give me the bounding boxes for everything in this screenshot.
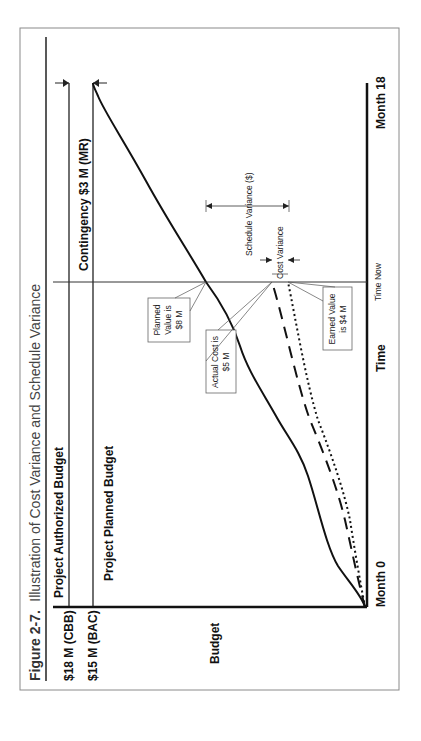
figure-number: Figure 2-7. <box>27 610 43 681</box>
ac-callout-line2: $5 M <box>221 353 231 372</box>
schedule-variance-label: Schedule Variance ($) <box>244 172 254 256</box>
ev-callout-line1: Earned Value <box>327 293 337 344</box>
ac-callout-line1: Actual Cost is <box>210 336 220 388</box>
cbb-value-label: $18 M (CBB) <box>62 610 76 681</box>
planned-budget-label: Project Planned Budget <box>102 446 116 581</box>
chart-svg: Figure 2-7. Illustration of Cost Varianc… <box>0 0 421 741</box>
bac-value-label: $15 M (BAC) <box>86 610 100 681</box>
ev-callout-line2: is $4 M <box>338 305 348 332</box>
y-axis-label: Budget <box>208 623 222 664</box>
x-axis-label: Time <box>374 344 388 372</box>
x-tick-month-18: Month 18 <box>374 76 388 129</box>
sv-arrowhead-top <box>206 203 212 209</box>
cv-arrowhead-top <box>266 257 272 263</box>
contingency-label: Contingency $3 M (MR) <box>77 138 91 271</box>
x-tick-month-0: Month 0 <box>374 561 388 607</box>
time-now-label: Time Now <box>373 262 383 301</box>
figure-title: Figure 2-7. Illustration of Cost Varianc… <box>26 284 43 681</box>
ev-leader-2 <box>288 282 335 287</box>
authorized-budget-label: Project Authorized Budget <box>52 447 66 598</box>
cv-arrowhead-bottom <box>288 257 294 263</box>
figure-container: Figure 2-7. Illustration of Cost Varianc… <box>0 0 421 741</box>
pv-callout-line1: Planned <box>152 304 162 335</box>
pv-callout-line2: Value is <box>163 305 173 335</box>
ac-leader-2 <box>218 282 272 330</box>
pv-callout-line3: $8 M <box>174 311 184 330</box>
sv-arrowhead-bottom <box>283 203 289 209</box>
figure-caption: Illustration of Cost Variance and Schedu… <box>27 284 43 602</box>
contingency-arrowhead-top <box>63 79 69 87</box>
cost-variance-label: Cost Variance <box>275 226 285 279</box>
